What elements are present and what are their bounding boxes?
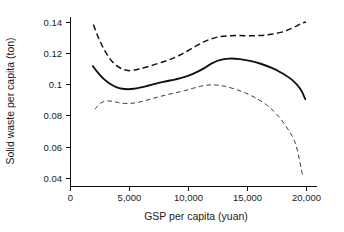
upper-confidence-curve (93, 22, 305, 71)
chart-svg: 0.14 0.12 0.1 0.08 0.06 0.04 0 5,000 10,… (0, 0, 344, 232)
fitted-curve (93, 59, 305, 100)
y-axis-ticks (66, 23, 71, 179)
x-tick-label-4: 20,000 (292, 192, 321, 203)
chart-figure: 0.14 0.12 0.1 0.08 0.06 0.04 0 5,000 10,… (0, 0, 344, 232)
x-tick-label-2: 10,000 (174, 192, 203, 203)
x-axis-ticks (71, 187, 307, 192)
lower-confidence-curve (95, 85, 303, 177)
x-axis-title: GSP per capita (yuan) (144, 210, 248, 222)
y-tick-label-4: 0.06 (44, 142, 63, 153)
x-tick-label-0: 0 (68, 192, 73, 203)
y-tick-label-3: 0.08 (44, 110, 63, 121)
x-tick-label-3: 15,000 (233, 192, 262, 203)
x-tick-label-1: 5,000 (118, 192, 142, 203)
y-tick-label-1: 0.12 (44, 48, 63, 59)
y-tick-label-2: 0.1 (49, 79, 62, 90)
y-tick-label-5: 0.04 (44, 173, 63, 184)
y-axis-title: Solid waste per capita (ton) (4, 37, 16, 164)
y-tick-label-0: 0.14 (44, 17, 63, 28)
